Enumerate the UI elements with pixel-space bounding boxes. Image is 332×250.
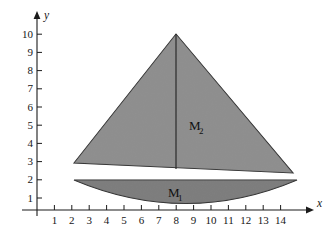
x-tick-label: 1: [52, 214, 58, 226]
x-tick-label: 9: [191, 214, 197, 226]
x-tick-label: 10: [206, 214, 218, 226]
x-tick-label: 6: [139, 214, 145, 226]
y-tick-label: 9: [28, 46, 34, 58]
y-tick-label: 6: [28, 101, 34, 113]
y-axis-label: y: [43, 9, 50, 22]
y-tick-label: 8: [28, 64, 34, 76]
x-tick-label: 13: [258, 214, 270, 226]
x-tick-label: 12: [240, 214, 251, 226]
x-axis-ticks: [54, 205, 280, 210]
y-tick-label: 10: [22, 28, 34, 40]
y-axis-ticks: [37, 34, 42, 198]
x-tick-label: 4: [104, 214, 110, 226]
y-tick-label: 3: [28, 155, 34, 167]
region-label-m1-subscript: 1: [178, 193, 183, 203]
x-tick-label: 7: [156, 214, 162, 226]
x-tick-label: 14: [275, 214, 287, 226]
region-m2-triangle: [74, 34, 293, 173]
region-label-m2-subscript: 2: [199, 126, 204, 136]
x-tick-label: 5: [121, 214, 127, 226]
region-m2: [70, 30, 300, 180]
y-tick-label: 1: [28, 192, 34, 204]
y-axis-tick-labels: 1 2 3 4 5 6 7 8 9 10: [22, 28, 34, 204]
x-tick-label: 2: [69, 214, 75, 226]
x-axis-tick-labels: 1 2 3 4 5 6 7 8 9 10 11 12 13 14: [52, 214, 287, 226]
figure-container: y x 1 2 3 4 5 6 7 8 9 10: [0, 0, 332, 250]
y-tick-label: 2: [28, 173, 34, 185]
y-tick-label: 7: [28, 82, 34, 94]
y-tick-label: 5: [28, 119, 34, 131]
y-axis-arrow-icon: [34, 11, 41, 19]
region-m1-parabola: [74, 180, 297, 204]
x-axis-arrow-icon: [306, 207, 314, 214]
x-tick-label: 3: [86, 214, 92, 226]
y-tick-label: 4: [28, 137, 34, 149]
x-tick-label: 11: [223, 214, 234, 226]
x-tick-label: 8: [173, 214, 179, 226]
x-axis-label: x: [316, 197, 323, 209]
plot-svg: y x 1 2 3 4 5 6 7 8 9 10: [0, 0, 332, 250]
